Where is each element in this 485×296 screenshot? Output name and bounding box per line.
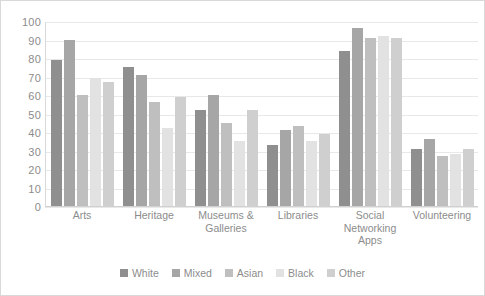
bar-black[interactable] (234, 141, 245, 206)
bar-group (262, 22, 334, 206)
bar-group (190, 22, 262, 206)
bar-groups (46, 22, 478, 206)
legend-item[interactable]: White (120, 267, 159, 279)
bar-group (334, 22, 406, 206)
bar-white[interactable] (267, 145, 278, 206)
bar-asian[interactable] (221, 123, 232, 206)
bar-asian[interactable] (365, 38, 376, 206)
bar-asian[interactable] (77, 95, 88, 206)
y-axis-tick-label: 80 (28, 53, 41, 65)
bar-other[interactable] (319, 134, 330, 206)
y-axis-tick-label: 60 (28, 90, 41, 102)
legend-swatch-icon (172, 269, 180, 277)
bar-other[interactable] (103, 82, 114, 206)
legend-label: Mixed (184, 267, 212, 279)
x-axis: ArtsHeritageMuseums & GalleriesLibraries… (46, 209, 478, 247)
legend-item[interactable]: Asian (225, 267, 263, 279)
bar-other[interactable] (247, 110, 258, 206)
y-axis-tick-label: 70 (28, 72, 41, 84)
bar-other[interactable] (175, 97, 186, 206)
bar-group (118, 22, 190, 206)
bar-group (406, 22, 478, 206)
bar-white[interactable] (195, 110, 206, 206)
bar-other[interactable] (391, 38, 402, 206)
y-axis-tick-label: 40 (28, 127, 41, 139)
bar-white[interactable] (411, 149, 422, 206)
bar-mixed[interactable] (136, 75, 147, 206)
bar-mixed[interactable] (352, 28, 363, 206)
plot-area (45, 22, 478, 207)
bar-black[interactable] (306, 141, 317, 206)
gridline (45, 207, 478, 208)
bar-white[interactable] (51, 60, 62, 206)
legend-swatch-icon (225, 269, 233, 277)
y-axis-tick-label: 10 (28, 183, 41, 195)
y-axis-tick-label: 0 (35, 201, 41, 213)
x-axis-category-label: Museums & Galleries (190, 209, 262, 247)
bar-group (46, 22, 118, 206)
legend-swatch-icon (120, 269, 128, 277)
y-axis-tick-label: 90 (28, 35, 41, 47)
y-axis-tick-label: 20 (28, 164, 41, 176)
legend-label: White (132, 267, 159, 279)
legend-label: Black (288, 267, 314, 279)
bar-asian[interactable] (149, 102, 160, 206)
bar-mixed[interactable] (208, 95, 219, 206)
bar-chart: 1009080706050403020100 ArtsHeritageMuseu… (0, 0, 485, 296)
bar-black[interactable] (378, 36, 389, 206)
bar-other[interactable] (463, 149, 474, 206)
legend-label: Other (339, 267, 365, 279)
bar-white[interactable] (123, 67, 134, 206)
bar-mixed[interactable] (64, 40, 75, 207)
y-axis-tick-label: 30 (28, 146, 41, 158)
bar-black[interactable] (90, 78, 101, 206)
bar-mixed[interactable] (280, 130, 291, 206)
bar-black[interactable] (162, 128, 173, 206)
legend-item[interactable]: Black (276, 267, 314, 279)
bar-asian[interactable] (293, 126, 304, 206)
y-axis: 1009080706050403020100 (11, 22, 41, 207)
x-axis-category-label: Heritage (118, 209, 190, 247)
x-axis-category-label: Libraries (262, 209, 334, 247)
y-axis-tick-label: 50 (28, 109, 41, 121)
x-axis-category-label: Social Networking Apps (334, 209, 406, 247)
chart-legend: WhiteMixedAsianBlackOther (1, 267, 484, 279)
x-axis-line (45, 206, 478, 207)
bar-mixed[interactable] (424, 139, 435, 206)
bar-asian[interactable] (437, 156, 448, 206)
bar-white[interactable] (339, 51, 350, 206)
x-axis-category-label: Volunteering (406, 209, 478, 247)
bar-black[interactable] (450, 154, 461, 206)
y-axis-tick-label: 100 (22, 16, 41, 28)
legend-label: Asian (237, 267, 263, 279)
x-axis-category-label: Arts (46, 209, 118, 247)
legend-swatch-icon (327, 269, 335, 277)
legend-item[interactable]: Other (327, 267, 365, 279)
legend-swatch-icon (276, 269, 284, 277)
legend-item[interactable]: Mixed (172, 267, 212, 279)
